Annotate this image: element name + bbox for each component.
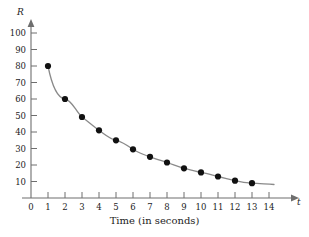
y-tick-label: 50 xyxy=(4,112,26,121)
data-point xyxy=(79,114,85,120)
data-point xyxy=(96,127,102,133)
data-curve-line xyxy=(48,66,274,185)
y-tick-label: 10 xyxy=(4,178,26,187)
axes-group xyxy=(22,19,299,201)
x-tick-label: 10 xyxy=(192,203,210,212)
y-axis-ticks xyxy=(31,33,37,182)
x-tick-label: 11 xyxy=(209,203,227,212)
x-axis-ticks xyxy=(48,192,269,198)
data-point xyxy=(249,180,255,186)
y-tick-label: 40 xyxy=(4,128,26,137)
data-point xyxy=(45,63,51,69)
x-tick-label: 8 xyxy=(158,203,176,212)
data-points-group xyxy=(45,63,255,186)
x-tick-label: 5 xyxy=(107,203,125,212)
y-tick-label: 60 xyxy=(4,95,26,104)
x-tick-label: 9 xyxy=(175,203,193,212)
y-tick-label: 100 xyxy=(4,29,26,38)
y-axis-title: R xyxy=(17,8,24,17)
data-point xyxy=(130,146,136,152)
data-point xyxy=(232,178,238,184)
x-tick-label: 7 xyxy=(141,203,159,212)
x-tick-label: 14 xyxy=(260,203,278,212)
y-tick-label: 20 xyxy=(4,161,26,170)
data-point xyxy=(198,169,204,175)
x-axis-title: t xyxy=(297,198,301,207)
y-tick-label: 70 xyxy=(4,79,26,88)
data-point xyxy=(62,96,68,102)
chart-figure: R t 100 90 80 70 60 50 40 30 20 10 0 1 2… xyxy=(0,0,309,237)
x-tick-label: 1 xyxy=(39,203,57,212)
y-tick-label: 30 xyxy=(4,145,26,154)
data-point xyxy=(181,165,187,171)
y-tick-label: 80 xyxy=(4,62,26,71)
data-point xyxy=(113,137,119,143)
x-tick-label: 6 xyxy=(124,203,142,212)
data-point xyxy=(147,154,153,160)
x-tick-label: 0 xyxy=(22,203,40,212)
data-point xyxy=(215,173,221,179)
x-tick-label: 2 xyxy=(56,203,74,212)
y-tick-label: 90 xyxy=(4,46,26,55)
x-tick-label: 3 xyxy=(73,203,91,212)
x-tick-label: 4 xyxy=(90,203,108,212)
data-point xyxy=(164,159,170,165)
x-axis-label: Time (in seconds) xyxy=(0,216,309,226)
x-tick-label: 13 xyxy=(243,203,261,212)
y-axis-arrow-icon xyxy=(28,19,35,27)
x-tick-label: 12 xyxy=(226,203,244,212)
